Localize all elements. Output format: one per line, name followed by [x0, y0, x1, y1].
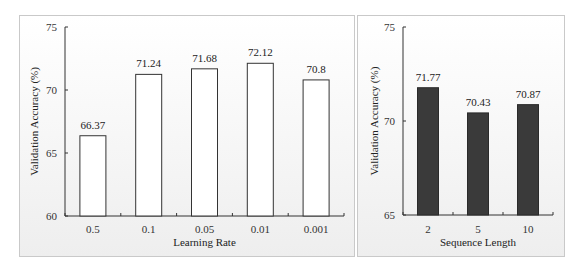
bar-0.001	[303, 80, 329, 216]
bar-value-label: 66.37	[81, 119, 106, 131]
bar-value-label: 71.24	[136, 57, 161, 69]
y-tick-label: 75	[384, 21, 396, 33]
x-tick-label: 2	[425, 223, 431, 235]
x-axis-title: Learning Rate	[173, 236, 236, 248]
y-axis-title: Validation Accuracy (%)	[28, 67, 41, 176]
bar-0.05	[192, 69, 218, 216]
x-tick-label: 0.001	[304, 223, 329, 235]
bar-value-label: 70.43	[466, 96, 491, 108]
y-axis-title: Validation Accuracy (%)	[368, 66, 381, 175]
x-tick-label: 0.1	[142, 223, 156, 235]
bar-2	[418, 88, 439, 215]
y-tick-label: 60	[46, 210, 58, 222]
y-tick-label: 70	[46, 84, 58, 96]
charts-canvas: 6065707566.370.571.240.171.680.0572.120.…	[0, 0, 584, 273]
x-axis-title: Sequence Length	[440, 236, 517, 248]
sequence-length-chart: 65707571.77270.43570.8710Sequence Length…	[368, 21, 553, 248]
bar-value-label: 70.8	[306, 63, 326, 75]
x-tick-label: 0.01	[251, 223, 270, 235]
y-tick-label: 75	[46, 21, 58, 33]
x-tick-label: 5	[475, 223, 481, 235]
y-tick-label: 65	[384, 209, 396, 221]
bar-value-label: 72.12	[248, 46, 273, 58]
bar-value-label: 70.87	[516, 88, 541, 100]
bar-10	[518, 105, 539, 215]
x-tick-label: 10	[523, 223, 535, 235]
bar-0.1	[136, 74, 162, 216]
y-tick-label: 65	[46, 147, 58, 159]
y-tick-label: 70	[384, 115, 396, 127]
learning-rate-chart: 6065707566.370.571.240.171.680.0572.120.…	[28, 21, 344, 248]
bar-value-label: 71.77	[416, 71, 441, 83]
x-tick-label: 0.05	[195, 223, 215, 235]
bar-0.01	[247, 63, 273, 216]
x-tick-label: 0.5	[86, 223, 100, 235]
bar-value-label: 71.68	[192, 52, 217, 64]
bar-5	[468, 113, 489, 215]
bar-0.5	[80, 136, 106, 216]
